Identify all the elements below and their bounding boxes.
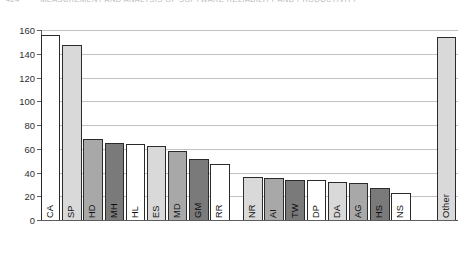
bar-series: CASPHDMHHLESMDGMRRNRAITWDPDAAGHSNSOther [41,30,458,220]
y-axis-tick-label: 60 [25,143,35,154]
bar: NR [243,177,262,220]
bar: ES [147,146,166,220]
y-axis-tick-label: 20 [25,191,35,202]
running-title: MEASUREMENT AND ANALYSIS OF SOFTWARE REL… [40,0,357,4]
y-axis-tick-label: 140 [19,48,35,59]
bar-chart: 020406080100120140160 CASPHDMHHLESMDGMRR… [0,9,466,277]
x-axis-line [41,220,458,221]
y-axis-tick-label: 100 [19,96,35,107]
y-axis-tick-label: 80 [25,120,35,131]
page-running-header: 424 MEASUREMENT AND ANALYSIS OF SOFTWARE… [0,0,466,9]
bar: CA [41,35,60,220]
bar: MH [105,143,124,220]
bar: HD [83,139,102,220]
bar: AG [349,183,368,220]
bar: DP [307,180,326,220]
bar: DA [328,182,347,220]
bar: NS [391,193,410,220]
figure-page: 424 MEASUREMENT AND ANALYSIS OF SOFTWARE… [0,0,466,277]
page-number: 424 [6,0,20,4]
bar: RR [210,164,229,220]
bar: GM [189,159,208,220]
bar: Other [437,37,456,220]
y-axis-tick-label: 0 [30,215,35,226]
plot-area: 020406080100120140160 CASPHDMHHLESMDGMRR… [41,30,458,220]
bar: HS [370,188,389,220]
y-axis-tick-label: 120 [19,72,35,83]
bar: AI [264,178,283,220]
y-axis-tick-label: 160 [19,25,35,36]
y-axis-tick [37,220,42,221]
y-axis-tick-label: 40 [25,167,35,178]
bar: SP [62,45,81,220]
bar: HL [126,144,145,220]
bar: TW [285,180,304,220]
bar: MD [168,151,187,220]
